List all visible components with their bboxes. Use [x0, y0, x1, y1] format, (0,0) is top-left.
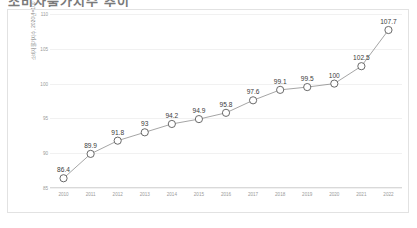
- x-axis-tick-label: 2021: [356, 192, 366, 197]
- data-point-marker[interactable]: [249, 97, 256, 104]
- y-axis-tick-label: 105: [30, 46, 48, 51]
- gridline: [50, 188, 402, 189]
- x-axis-line: [50, 187, 402, 188]
- data-point-label: 93: [141, 120, 148, 127]
- x-axis-tick-label: 2011: [86, 192, 96, 197]
- data-point-marker[interactable]: [358, 63, 365, 70]
- data-point-label: 91.8: [111, 129, 124, 136]
- data-point-label: 107.7: [380, 18, 397, 25]
- data-point-marker[interactable]: [60, 175, 67, 182]
- data-point-marker[interactable]: [304, 83, 311, 90]
- y-axis-tick-label: 95: [30, 116, 48, 121]
- x-axis-tick-label: 2014: [167, 192, 177, 197]
- data-point-marker[interactable]: [87, 150, 94, 157]
- x-axis-tick-label: 2016: [221, 192, 231, 197]
- data-point-marker[interactable]: [168, 120, 175, 127]
- x-axis-tick-label: 2010: [58, 192, 68, 197]
- x-axis-tick-label: 2012: [113, 192, 123, 197]
- data-point-label: 86.4: [57, 166, 70, 173]
- chart-container: 소비자물가지수, 2020년=100 859095100105110 86.48…: [7, 9, 409, 213]
- data-point-marker[interactable]: [222, 109, 229, 116]
- data-point-marker[interactable]: [114, 137, 121, 144]
- data-point-label: 95.8: [220, 101, 233, 108]
- y-axis-tick-label: 110: [30, 12, 48, 17]
- plot-area: 86.489.991.89394.294.995.897.699.199.510…: [50, 14, 402, 188]
- x-axis-tick-label: 2015: [194, 192, 204, 197]
- data-point-label: 94.2: [165, 112, 178, 119]
- data-point-marker[interactable]: [277, 86, 284, 93]
- data-point-marker[interactable]: [331, 80, 338, 87]
- x-axis-tick-label: 2019: [302, 192, 312, 197]
- x-axis-tick-label: 2018: [275, 192, 285, 197]
- data-point-label: 99.5: [301, 75, 314, 82]
- x-axis-tick-label: 2020: [329, 192, 339, 197]
- data-point-label: 102.5: [353, 54, 370, 61]
- data-point-label: 89.9: [84, 142, 97, 149]
- y-axis-ticks: 859095100105110: [28, 10, 48, 212]
- data-point-marker[interactable]: [385, 26, 392, 33]
- chart-title-strip: 소비자물가지수 추이: [0, 0, 417, 7]
- data-point-marker[interactable]: [195, 115, 202, 122]
- x-axis-ticks: 2010201120122013201420152016201720182019…: [50, 192, 402, 202]
- data-point-label: 100: [329, 72, 340, 79]
- x-axis-tick-label: 2022: [383, 192, 393, 197]
- y-axis-tick-label: 90: [30, 151, 48, 156]
- x-axis-tick-label: 2017: [248, 192, 258, 197]
- y-axis-tick-label: 100: [30, 81, 48, 86]
- data-point-label: 94.9: [193, 107, 206, 114]
- x-axis-tick-label: 2013: [140, 192, 150, 197]
- page-title: 소비자물가지수 추이: [8, 0, 130, 7]
- data-point-label: 99.1: [274, 78, 287, 85]
- chart-plot-wrapper: 소비자물가지수, 2020년=100 859095100105110 86.48…: [8, 10, 408, 212]
- data-point-label: 97.6: [247, 88, 260, 95]
- y-axis-tick-label: 85: [30, 186, 48, 191]
- data-point-marker[interactable]: [141, 129, 148, 136]
